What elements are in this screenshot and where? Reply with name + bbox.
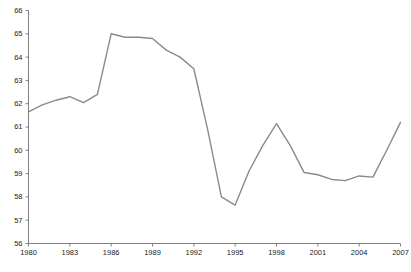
y-tick-label: 65 [14,29,22,38]
x-axis: 1980198319861989199219951998200120042007 [20,244,409,258]
y-tick-label: 56 [14,239,22,248]
x-tick-label: 1983 [61,248,78,257]
x-tick-label: 1995 [227,248,244,257]
x-tick-label: 2004 [351,248,368,257]
x-tick-label: 2007 [392,248,409,257]
footer-strip [0,266,411,272]
x-tick-label: 1980 [20,248,37,257]
y-tick-label: 62 [14,99,22,108]
y-axis: 5657585960616263646566 [14,6,28,248]
line-chart: 5657585960616263646566 19801983198619891… [0,0,411,272]
y-tick-label: 66 [14,6,22,15]
y-tick-label: 59 [14,169,22,178]
y-tick-label: 58 [14,192,22,201]
x-tick-label: 1998 [268,248,285,257]
x-tick-label: 1989 [144,248,161,257]
y-tick-label: 63 [14,76,22,85]
y-tick-label: 60 [14,146,22,155]
y-tick-label: 64 [14,53,22,62]
data-series-line [29,34,401,205]
x-tick-label: 1986 [103,248,120,257]
chart-plot-area: 5657585960616263646566 19801983198619891… [0,0,411,272]
x-tick-label: 2001 [309,248,326,257]
y-tick-label: 61 [14,122,22,131]
y-tick-label: 57 [14,216,22,225]
x-tick-label: 1992 [185,248,202,257]
